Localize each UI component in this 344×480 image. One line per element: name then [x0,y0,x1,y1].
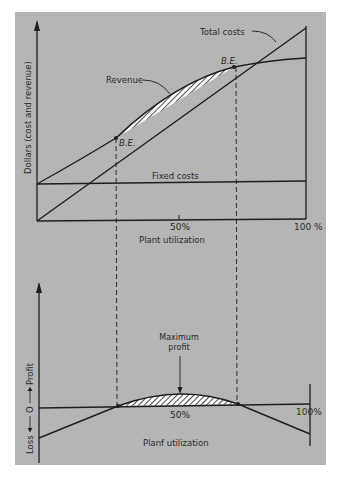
bottom-chart: Maximum profit 50% 100% Planf utilizatio… [25,282,322,463]
profit-break-even-1 [116,404,120,408]
bottom-x-axis-label: Planf utilization [143,438,209,448]
total-costs-label: Total costs [199,27,245,37]
total-costs-line [37,28,306,221]
break-even-label-1: B.E. [119,138,136,148]
x-axis-label: Plant utilization [139,235,205,245]
profit-label: Profit [25,362,35,385]
fixed-costs-label: Fixed costs [152,171,199,181]
max-profit-arrowhead-icon [178,387,183,394]
y-axis-arrow-icon [34,20,40,31]
profit-axis-arrow-icon [36,282,42,293]
profit-break-even-2 [236,402,240,406]
dashed-guide-1 [116,138,117,406]
max-profit-label-1: Maximum [159,333,199,342]
loss-arrowhead-icon [28,428,33,432]
revenue-leader [143,80,170,94]
revenue-curve [37,58,306,184]
loss-profit-axis-label: Loss O Profit [25,362,35,454]
dashed-guide-2 [236,67,237,404]
top-chart: Total costs Revenue Fixed costs B.E. B.E… [23,20,323,245]
tick-label-50: 50% [170,222,190,232]
tick-label-100: 100 % [294,222,323,232]
bottom-tick-label-50: 50% [170,410,190,420]
revenue-label: Revenue [106,75,143,85]
profit-arrowhead-icon [28,387,33,391]
break-even-label-2: B.E. [221,56,238,66]
x-axis [37,219,306,221]
max-profit-label-2: profit [168,343,189,352]
y-axis-label: Dollars (cost and revenue) [23,61,33,174]
total-costs-leader [252,31,276,42]
zero-label: O [25,406,35,413]
fixed-costs-line [37,181,306,184]
break-even-diagram: Total costs Revenue Fixed costs B.E. B.E… [0,0,344,480]
bottom-tick-label-100: 100% [296,407,322,417]
loss-label: Loss [25,435,35,454]
